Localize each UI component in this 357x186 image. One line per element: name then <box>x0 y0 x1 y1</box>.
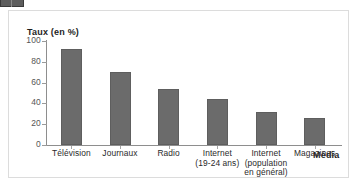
y-axis-tick-labels: 020406080100 <box>9 11 41 186</box>
bar-5 <box>304 118 325 145</box>
category-label-5: Magazines <box>284 149 345 159</box>
bar-4 <box>256 112 277 145</box>
bar-2 <box>158 89 179 145</box>
y-axis-tick-label: 20 <box>11 119 41 128</box>
corner-tab-stem <box>11 0 12 7</box>
bar-chart-figure: Taux (en %) Média 020406080100 Télévisio… <box>0 0 357 186</box>
chart-frame: Taux (en %) Média 020406080100 Télévisio… <box>8 10 349 178</box>
bar-1 <box>110 72 131 145</box>
corner-tab-marker <box>0 0 24 7</box>
y-axis-tick-label: 80 <box>11 57 41 66</box>
x-axis-line <box>46 145 342 146</box>
y-axis-tick-label: 40 <box>11 98 41 107</box>
bar-0 <box>61 49 82 145</box>
y-axis-tick-label: 0 <box>11 140 41 149</box>
y-axis-tick <box>42 145 47 146</box>
y-axis-tick-label: 60 <box>11 78 41 87</box>
bar-3 <box>207 99 228 145</box>
plot-area <box>47 41 339 145</box>
y-axis-tick-label: 100 <box>11 36 41 45</box>
